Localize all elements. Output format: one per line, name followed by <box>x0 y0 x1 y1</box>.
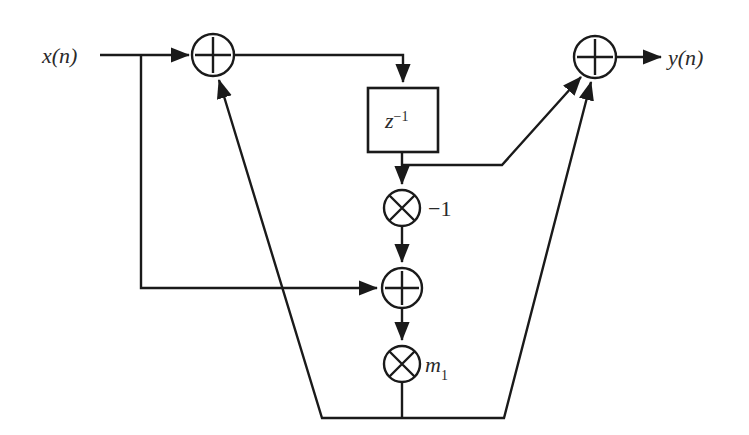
adder-middle[interactable] <box>382 268 422 308</box>
adder-output[interactable] <box>574 36 616 78</box>
gain-label-m1: m1 <box>425 352 448 383</box>
input-signal-label: x(n) <box>41 43 77 68</box>
edge-input-tap-down <box>141 55 377 288</box>
signal-flow-diagram: z−1 −1 m1 x(n) y(n) <box>0 0 749 435</box>
delay-z-inverse[interactable]: z−1 <box>368 88 438 152</box>
edge-adder-to-delay <box>234 55 403 82</box>
multiplier-m1[interactable] <box>384 346 420 382</box>
gain-label-negative-one: −1 <box>428 196 451 221</box>
adder-input[interactable] <box>192 34 234 76</box>
diagram-canvas: z−1 −1 m1 x(n) y(n) <box>0 0 749 435</box>
output-signal-label: y(n) <box>666 45 703 70</box>
multiplier-negative-one[interactable] <box>384 190 420 226</box>
